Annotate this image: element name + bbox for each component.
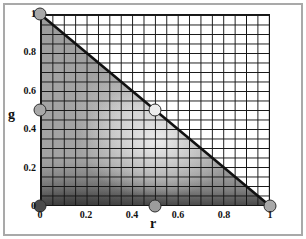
y-axis-label: g <box>8 108 15 122</box>
y-tick-label: 0.4 <box>24 124 37 134</box>
x-tick-label: 0 <box>38 210 43 220</box>
data-point-marker <box>149 200 162 213</box>
x-tick-label: 0.2 <box>80 210 93 220</box>
x-tick-label: 0.8 <box>218 210 231 220</box>
x-tick-label: 0.4 <box>126 210 139 220</box>
data-point-marker <box>34 104 47 117</box>
x-tick-label: 1 <box>268 210 273 220</box>
y-tick-label: 0.2 <box>24 163 37 173</box>
y-tick-label: 0 <box>31 201 36 211</box>
y-tick-label: 1 <box>31 9 36 19</box>
y-tick-label: 0.6 <box>24 86 37 96</box>
y-tick-label: 0.8 <box>24 47 37 57</box>
x-axis-label: r <box>150 217 156 231</box>
data-point-marker <box>149 104 162 117</box>
x-tick-label: 0.6 <box>172 210 185 220</box>
